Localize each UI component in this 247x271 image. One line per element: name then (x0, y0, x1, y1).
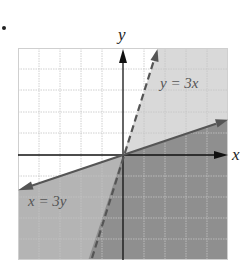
line-y-eq-3x-label: y = 3x (158, 75, 199, 91)
y-axis-label: y (116, 25, 126, 44)
x-axis-label: x (231, 145, 240, 164)
line-x-eq-3y-label: x = 3y (27, 193, 67, 209)
graph: y x y = 3x x = 3y (0, 0, 247, 271)
